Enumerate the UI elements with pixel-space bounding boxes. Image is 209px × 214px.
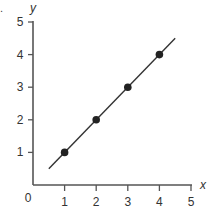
origin-label: 0 [25, 191, 32, 205]
y-tick-label: 4 [17, 48, 24, 62]
data-point [156, 51, 164, 59]
y-tick-label: 5 [17, 15, 24, 29]
x-axis-label: x [199, 178, 207, 192]
x-ticks: 12345 [61, 185, 194, 209]
data-point [124, 83, 132, 91]
data-series [49, 38, 175, 168]
line-chart: 12345 y 12345 x 0 [0, 0, 209, 214]
data-point [61, 149, 69, 157]
y-ticks: 12345 [17, 15, 33, 159]
x-tick-label: 1 [61, 195, 68, 209]
y-axis: 12345 y [17, 1, 37, 185]
y-tick-label: 2 [17, 113, 24, 127]
x-tick-label: 5 [188, 195, 195, 209]
y-axis-label: y [29, 1, 37, 15]
trend-line [49, 38, 175, 168]
y-tick-label: 1 [17, 145, 24, 159]
x-axis: 12345 x [33, 178, 207, 209]
x-tick-label: 2 [93, 195, 100, 209]
data-point [92, 116, 100, 124]
y-tick-label: 3 [17, 80, 24, 94]
x-tick-label: 4 [156, 195, 163, 209]
x-tick-label: 3 [124, 195, 131, 209]
